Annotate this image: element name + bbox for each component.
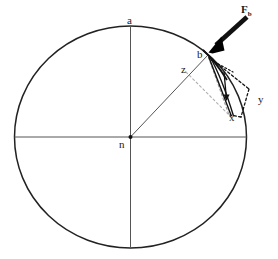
dotted-line-corner-to-x — [241, 89, 249, 117]
label-force-fb: Fb — [241, 4, 252, 18]
force-sub-letter: b — [248, 10, 252, 18]
label-contact-b: b — [197, 49, 203, 60]
label-apex-a: a — [127, 15, 132, 26]
center-point-dot — [129, 135, 133, 139]
label-component-x: x — [229, 112, 235, 123]
label-component-y: y — [258, 94, 264, 105]
label-radius-z: z — [181, 64, 186, 75]
force-arrow-fb — [209, 17, 248, 54]
diagram-svg — [0, 0, 278, 259]
label-center-n: n — [119, 139, 125, 150]
figure-canvas: a n b z x y Fb — [0, 0, 278, 259]
dotted-line-z-to-x — [186, 72, 228, 114]
force-main-letter: F — [241, 3, 248, 15]
radius-line-nb — [131, 55, 209, 137]
